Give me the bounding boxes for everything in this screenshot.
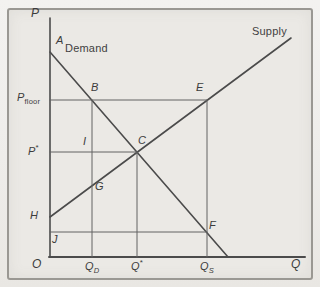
p-star-tick-label: P* xyxy=(28,146,39,157)
point-i-label: I xyxy=(83,136,86,147)
q-d-tick-label: QD xyxy=(85,261,99,272)
p-floor-tick-sub: floor xyxy=(25,97,41,106)
supply-curve-label: Supply xyxy=(252,26,287,37)
point-h-label: H xyxy=(30,210,38,221)
point-b-label: B xyxy=(91,82,99,93)
point-j-label: J xyxy=(52,234,58,245)
p-star-tick-main: P xyxy=(28,145,36,157)
plot-lines xyxy=(0,0,320,287)
q-s-tick-label: QS xyxy=(200,261,214,272)
demand-curve-label: Demand xyxy=(65,43,108,54)
q-star-tick-main: Q xyxy=(131,260,140,272)
point-e-label: E xyxy=(196,82,204,93)
origin-label: O xyxy=(32,258,42,270)
point-g-label: G xyxy=(95,181,104,192)
p-star-tick-sup: * xyxy=(36,143,39,152)
q-d-tick-sub: D xyxy=(94,266,100,275)
p-floor-tick-label: Pfloor xyxy=(17,92,40,103)
p-axis-label: P xyxy=(31,7,39,19)
q-d-tick-main: Q xyxy=(85,260,94,272)
q-star-tick-label: Q* xyxy=(131,261,143,272)
q-s-tick-main: Q xyxy=(200,260,209,272)
q-s-tick-sub: S xyxy=(209,266,214,275)
q-axis-label: Q xyxy=(291,258,301,270)
price-floor-diagram: P Q O Demand Supply A B E I C G H J F Pf… xyxy=(0,0,320,287)
q-star-tick-sup: * xyxy=(140,258,143,267)
point-c-label: C xyxy=(138,135,146,146)
point-a-label: A xyxy=(56,35,64,46)
p-floor-tick-main: P xyxy=(17,91,25,103)
point-f-label: F xyxy=(209,220,216,231)
